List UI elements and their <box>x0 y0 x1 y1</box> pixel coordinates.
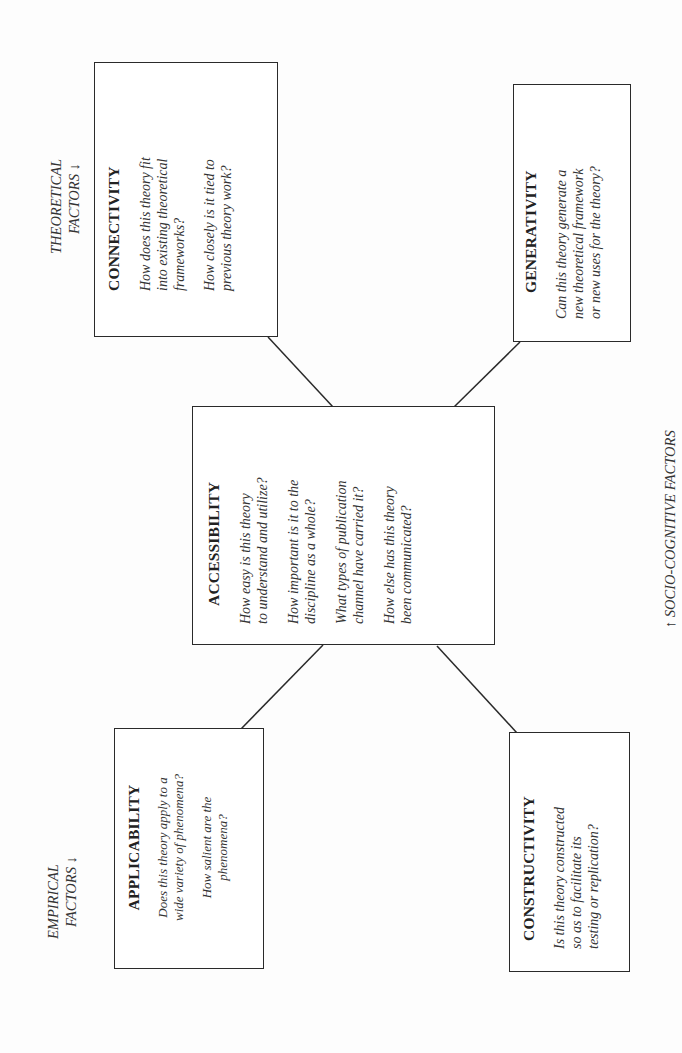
node-constructivity: CONSTRUCTIVITY Is this theory constructe… <box>509 732 630 972</box>
empirical-label-line1: EMPIRICAL <box>44 856 62 939</box>
node-accessibility: ACCESSIBILITY How easy is this theory to… <box>192 406 495 645</box>
node-question: Is this theory constructed so as to faci… <box>551 731 602 949</box>
node-question: How easy is this theory to understand an… <box>237 405 271 624</box>
node-question: How closely is it tied to previous theor… <box>201 61 235 291</box>
socio-cognitive-factors-label: ↑ SOCIO-COGNITIVE FACTORS <box>661 430 679 628</box>
edge-accessibility-connectivity <box>268 337 333 407</box>
node-title: GENERATIVITY <box>522 83 540 319</box>
edge-accessibility-constructivity <box>437 646 517 733</box>
node-title: ACCESSIBILITY <box>205 405 223 624</box>
node-question: How important is it to the discipline as… <box>285 405 319 624</box>
node-question: How else has this theory been communicat… <box>381 405 415 624</box>
empirical-label-line2: FACTORS ↓ <box>62 856 80 939</box>
node-title: CONNECTIVITY <box>105 61 123 291</box>
theoretical-label-line1: THEORETICAL <box>47 159 65 254</box>
node-connectivity: CONNECTIVITY How does this theory fit in… <box>94 62 278 337</box>
edge-accessibility-generativity <box>454 342 520 407</box>
node-question: How does this theory fit into existing t… <box>137 61 188 291</box>
node-applicability: APPLICABILITY Does this theory apply to … <box>114 728 264 969</box>
edge-accessibility-applicability <box>241 645 323 729</box>
theoretical-label-line2: FACTORS ↓ <box>65 159 83 254</box>
socio-cognitive-label-text: ↑ SOCIO-COGNITIVE FACTORS <box>661 430 679 628</box>
node-question: Can this theory generate a new theoretic… <box>553 83 604 319</box>
node-generativity: GENERATIVITY Can this theory generate a … <box>513 84 631 342</box>
node-question: What types of publication channel have c… <box>333 405 367 624</box>
theoretical-factors-label: THEORETICAL FACTORS ↓ <box>47 159 83 254</box>
node-title: APPLICABILITY <box>125 735 143 960</box>
node-question: How salient are the phenomena? <box>199 735 231 960</box>
diagram-canvas: THEORETICAL FACTORS ↓ EMPIRICAL FACTORS … <box>0 0 682 1053</box>
node-question: Does this theory apply to a wide variety… <box>155 735 187 960</box>
node-title: CONSTRUCTIVITY <box>520 731 538 949</box>
empirical-factors-label: EMPIRICAL FACTORS ↓ <box>44 856 80 939</box>
